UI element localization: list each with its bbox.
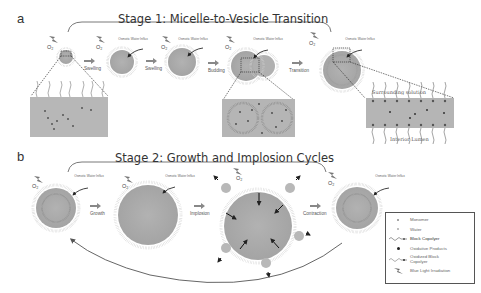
oxygen-label: O₂ (32, 183, 38, 189)
vesicle-grown (115, 182, 181, 248)
oxygen-label: O₂ (122, 183, 128, 189)
oxygen-label: O₂ (309, 40, 315, 46)
oxygen-label: O₂ (161, 44, 167, 50)
step-label-implosion: Implosion (190, 211, 210, 216)
legend-item-block-copolymer: Block Copolyer (386, 234, 474, 244)
legend: Monomer Water Block Copolyer Oxidative P… (385, 212, 475, 284)
osmotic-influx-label: Osmotic Water Influx (375, 175, 405, 178)
vesicle-stage2-start (33, 185, 88, 231)
vesicle-implosion (214, 176, 310, 277)
vesicle-contracted (333, 184, 389, 232)
osmotic-influx-label: Osmotic Water Influx (178, 38, 208, 41)
step-label-growth: Growth (90, 211, 105, 216)
oxygen-label: O₂ (96, 44, 102, 50)
legend-item-water: Water (386, 225, 474, 235)
oxygen-label: O₂ (225, 44, 231, 50)
step-label-swelling: Swelling (84, 66, 101, 71)
monomer-dot-icon (397, 219, 400, 222)
osmotic-influx-label: Osmotic Water Influx (118, 38, 148, 41)
inset-micelle (30, 81, 108, 137)
osmotic-influx-label: Osmotic Water Influx (253, 38, 283, 41)
legend-item-blue-light: Blue Light Irradiation (386, 266, 474, 276)
oxidized-copolymer-icon (388, 257, 408, 262)
panel-letter-b: b (17, 149, 24, 164)
legend-item-oxidized-copolymer: Oxidized Block Copolyer (386, 253, 474, 266)
oxygen-label: O₂ (328, 180, 334, 186)
step-label-budding: Budding (208, 68, 225, 73)
vesicle-transition (321, 48, 364, 92)
vesicle-budding (229, 49, 278, 84)
oxygen-label: O₂ (47, 44, 53, 50)
oxidative-dot-icon (397, 247, 400, 250)
block-copolymer-icon (388, 236, 408, 241)
micelle (57, 48, 75, 66)
legend-item-oxidative-products: Oxidative Products (386, 244, 474, 254)
lightning-icon (393, 267, 403, 274)
oxygen-label: O₂ (236, 175, 242, 181)
vesicle-swelling-2 (166, 46, 204, 79)
vesicle-swelling-1 (108, 48, 144, 77)
water-dot-icon (397, 228, 399, 230)
interior-lumen-label: Interior Lumen (390, 136, 429, 142)
surrounding-solution-label: Surrounding solution (372, 89, 426, 95)
panel-letter-a: a (17, 11, 24, 26)
legend-item-monomer: Monomer (386, 215, 474, 225)
stage1-title: Stage 1: Micelle-to-Vesicle Transition (118, 12, 328, 26)
osmotic-influx-label: Osmotic Water Influx (165, 175, 195, 178)
inset-budding (222, 99, 295, 137)
step-label-contraction: Contraction (303, 211, 327, 216)
osmotic-influx-label: Osmotic Water Influx (74, 175, 104, 178)
step-label-swelling: Swelling (145, 66, 162, 71)
osmotic-influx-label: Osmotic Water Influx (345, 38, 375, 41)
stage2-title: Stage 2: Growth and Implosion Cycles (115, 151, 334, 165)
step-label-transition: Transition (289, 68, 309, 73)
